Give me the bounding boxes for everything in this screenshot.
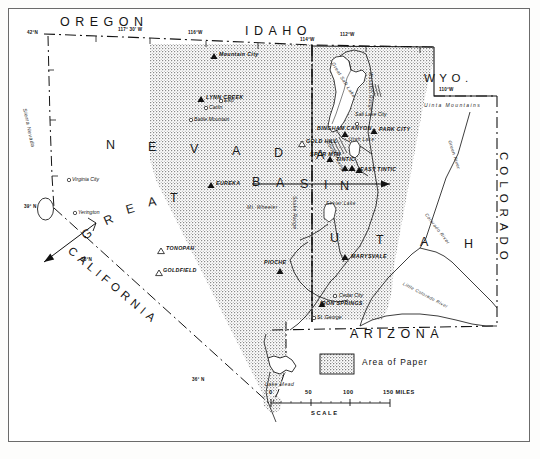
coord-lat-36n: 36° N	[192, 378, 205, 383]
coord-lat-42n: 42°N	[27, 31, 38, 36]
region-label-nevada-d: D	[274, 147, 283, 160]
district-label-east-tintic: EAST TINTIC	[360, 167, 380, 172]
region-label-great-a: A	[147, 195, 157, 209]
scale-tick-100: 100	[343, 390, 354, 396]
coord-lon-110w: 110°W	[439, 88, 454, 93]
town-label-st-george: St. George	[317, 315, 342, 320]
scale-caption: SCALE	[311, 411, 339, 417]
region-label-basin-s: S	[300, 178, 308, 191]
town-label-salt-lake-city: Salt Lake City	[355, 112, 371, 117]
town-label-elko: Elko	[224, 98, 234, 103]
district-label-mountain-city: Mountain City	[219, 52, 259, 57]
region-label-basin-a: A	[276, 177, 284, 190]
region-label-nevada-n: N	[106, 139, 115, 152]
scale-tick-150-miles: 150 MILES	[383, 390, 415, 396]
district-label-bingham-canyon: BINGHAM CANYON	[317, 126, 345, 131]
coord-lat-38n-a: 38°N	[81, 258, 92, 263]
state-label-arizona: ARIZONA	[350, 328, 444, 341]
coord-lon-114w: 114°W	[300, 38, 315, 43]
district-label-park-city: PARK CITY	[379, 127, 410, 132]
region-label-nevada-v: V	[190, 143, 198, 156]
town-label-battle-mountain: Battle Mountain	[194, 117, 229, 122]
region-label-utah-u: U	[330, 232, 339, 245]
physio-label-mt-wheeler: Mt. Wheeler	[247, 206, 278, 211]
physio-label-snake-range: Snake Range	[291, 196, 296, 229]
physio-label-sevier-lake: Sevier Lake	[326, 202, 340, 207]
region-label-utah-t: T	[376, 234, 384, 247]
district-label-marysvale: MARYSVALE	[351, 254, 387, 259]
region-label-great-t: T	[170, 192, 178, 205]
legend-label-area-of-paper: Area of Paper	[362, 358, 428, 366]
state-label-colorado: COLORADO	[498, 152, 510, 266]
district-label-gold-hill: GOLD HILL	[306, 139, 338, 144]
coord-lat-39n: 39° N	[24, 205, 37, 210]
town-label-carlin: Carlin	[209, 105, 222, 110]
scale-bar	[271, 399, 390, 407]
region-label-nevada-e: E	[148, 141, 156, 154]
map-figure: OREGON IDAHO WYO. COLORADO ARIZONA CALIF…	[0, 0, 540, 459]
town-label-virginia-city: Virginia City	[72, 177, 99, 182]
region-label-utah-h: H	[464, 238, 473, 251]
region-label-utah-a: A	[420, 236, 428, 249]
coord-lon-117-30w: 117° 30' W	[118, 28, 142, 33]
state-label-idaho: IDAHO	[245, 25, 312, 38]
district-label-tonopah: TONOPAH	[166, 246, 194, 251]
scale-tick-50: 50	[305, 390, 312, 396]
district-label-pioche: PIOCHE	[264, 260, 286, 265]
coord-lon-112w: 112°W	[340, 33, 355, 38]
coord-lon-116w: 116°W	[188, 31, 203, 36]
physio-label-uinta-mountains: Uinta Mountains	[424, 103, 481, 108]
physio-label-wasatch-range: Wasatch Range	[367, 72, 372, 111]
legend-swatch	[320, 354, 354, 374]
scale-tick-0: 0	[269, 390, 273, 396]
district-label-iron-springs: IRON SPRINGS	[320, 301, 363, 306]
state-label-wyoming: WYO.	[424, 73, 473, 85]
town-label-cedar-city: Cedar City	[339, 293, 363, 298]
region-label-basin-b: B	[252, 176, 260, 189]
district-label-goldfield: GOLDFIELD	[163, 268, 197, 273]
region-label-nevada-a1: A	[232, 145, 240, 158]
physio-label-lake-mead: Lake Mead	[265, 382, 294, 387]
district-label-eureka: EUREKA	[216, 181, 240, 186]
region-label-basin-n: N	[340, 180, 349, 193]
physio-label-utah-lake: Utah Lake	[349, 138, 363, 143]
region-label-basin-i: I	[324, 179, 327, 192]
town-label-yerington: Yerington	[78, 210, 100, 215]
